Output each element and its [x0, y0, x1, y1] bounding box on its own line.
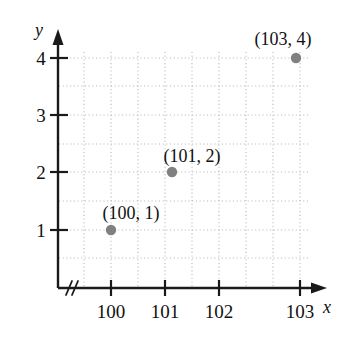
x-tick-label-103: 103: [286, 301, 315, 322]
x-tick-label-101: 101: [151, 301, 180, 322]
grid-vertical-lines: [84, 52, 300, 286]
data-point-101-2[interactable]: [167, 167, 177, 177]
y-axis-label: y: [33, 20, 43, 40]
y-tick-label-4: 4: [36, 48, 46, 69]
point-label-101-2: (101, 2): [164, 146, 221, 167]
x-tick-label-102: 102: [205, 301, 234, 322]
point-label-103-4: (103, 4): [255, 29, 312, 50]
data-point-103-4[interactable]: [291, 53, 301, 63]
x-axis-line: [58, 283, 327, 294]
y-axis-line: [53, 29, 64, 288]
y-tick-label-3: 3: [36, 105, 46, 126]
x-tick-label-100: 100: [97, 301, 126, 322]
data-point-100-1[interactable]: [106, 225, 116, 235]
y-tick-label-2: 2: [36, 162, 46, 183]
x-axis-label: x: [322, 297, 331, 317]
scatter-plot-figure: 4 3 2 1 100 101 102 103 y x (100, 1) (10…: [0, 0, 341, 337]
point-label-100-1: (100, 1): [103, 203, 160, 224]
plot-canvas: 4 3 2 1 100 101 102 103 y x (100, 1) (10…: [0, 0, 341, 337]
y-tick-label-1: 1: [36, 220, 46, 241]
